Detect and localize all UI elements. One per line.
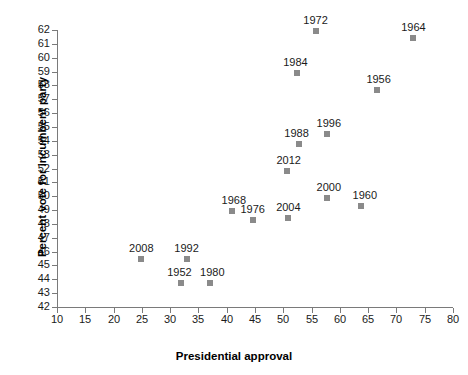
data-point-label: 1992 (174, 243, 198, 254)
data-point-marker (285, 215, 291, 221)
data-point-label: 1980 (200, 267, 224, 278)
data-point-label: 2008 (129, 243, 153, 254)
x-tick-label: 75 (410, 313, 440, 325)
data-point-marker (374, 87, 380, 93)
data-point-marker (294, 70, 300, 76)
y-tick-mark (52, 44, 57, 45)
y-tick-mark (52, 293, 57, 294)
data-point-marker (358, 203, 364, 209)
y-tick-mark (52, 141, 57, 142)
x-axis-title: Presidential approval (0, 350, 468, 362)
data-point-label: 1952 (167, 267, 191, 278)
x-tick-label: 70 (381, 313, 411, 325)
data-point-label: 1984 (283, 57, 307, 68)
x-tick-label: 25 (127, 313, 157, 325)
x-tick-label: 60 (325, 313, 355, 325)
y-tick-mark (52, 99, 57, 100)
y-axis-title: Percent vote for incumbent party (36, 47, 48, 287)
y-axis-line (57, 30, 58, 307)
data-point-label: 1988 (284, 128, 308, 139)
y-tick-mark (52, 58, 57, 59)
data-point-label: 2012 (276, 155, 300, 166)
data-point-label: 1960 (353, 190, 377, 201)
data-point-marker (324, 131, 330, 137)
y-tick-mark (52, 238, 57, 239)
x-tick-label: 15 (70, 313, 100, 325)
data-point-marker (296, 141, 302, 147)
x-tick-label: 45 (240, 313, 270, 325)
y-tick-mark (52, 169, 57, 170)
data-point-label: 2000 (317, 182, 341, 193)
y-tick-mark (52, 252, 57, 253)
y-tick-label-wrap: 62 (0, 24, 50, 35)
data-point-label: 2004 (276, 202, 300, 213)
data-point-marker (250, 217, 256, 223)
y-tick-label: 42 (4, 301, 50, 312)
y-tick-mark (52, 196, 57, 197)
y-tick-label-wrap: 43 (0, 287, 50, 298)
data-point-label: 1972 (303, 15, 327, 26)
y-tick-mark (52, 113, 57, 114)
x-tick-label: 55 (297, 313, 327, 325)
data-point-marker (138, 256, 144, 262)
y-tick-mark (52, 30, 57, 31)
y-tick-mark (52, 127, 57, 128)
data-point-marker (178, 280, 184, 286)
y-tick-label-wrap: 42 (0, 301, 50, 312)
x-tick-label: 10 (42, 313, 72, 325)
y-tick-mark (52, 279, 57, 280)
y-tick-mark (52, 182, 57, 183)
y-tick-mark (52, 85, 57, 86)
x-tick-label: 65 (353, 313, 383, 325)
y-tick-mark (52, 155, 57, 156)
data-point-label: 1964 (401, 22, 425, 33)
x-tick-label: 30 (155, 313, 185, 325)
data-point-marker (229, 208, 235, 214)
y-tick-mark (52, 210, 57, 211)
y-tick-label: 62 (4, 24, 50, 35)
y-tick-mark (52, 224, 57, 225)
data-point-marker (207, 280, 213, 286)
data-point-label: 1996 (317, 118, 341, 129)
data-point-marker (184, 256, 190, 262)
data-point-label: 1976 (240, 204, 264, 215)
data-point-marker (324, 195, 330, 201)
data-point-label: 1956 (366, 74, 390, 85)
x-tick-label: 40 (212, 313, 242, 325)
x-tick-label: 50 (268, 313, 298, 325)
data-point-marker (284, 168, 290, 174)
y-tick-mark (52, 72, 57, 73)
scatter-plot: 4243444546474849505152535455565758596061… (0, 0, 468, 375)
y-tick-mark (52, 265, 57, 266)
x-tick-label: 80 (438, 313, 468, 325)
data-point-marker (410, 35, 416, 41)
x-tick-label: 20 (99, 313, 129, 325)
data-point-marker (313, 28, 319, 34)
x-tick-label: 35 (183, 313, 213, 325)
y-tick-label: 43 (4, 287, 50, 298)
